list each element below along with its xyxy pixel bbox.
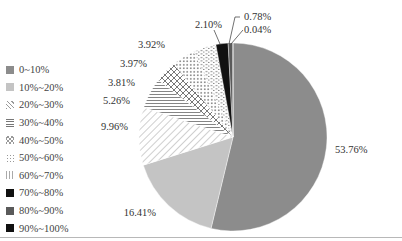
legend-item-50-60: 50%~60% <box>6 149 68 167</box>
slice-value-label: 5.26% <box>103 95 130 106</box>
swatch-crosshatch-icon <box>6 136 14 144</box>
swatch-dots-icon <box>6 154 14 162</box>
legend-item-0-10: 0~10% <box>6 61 68 79</box>
legend-item-30-40: 30%~40% <box>6 114 68 132</box>
legend-label: 60%~70% <box>19 170 63 181</box>
leader-line <box>231 30 243 44</box>
legend-item-70-80: 70%~80% <box>6 184 68 202</box>
swatch-dashes-icon <box>6 171 14 179</box>
legend-label: 30%~40% <box>19 117 63 128</box>
swatch-horizontal-icon <box>6 119 14 127</box>
legend-label: 70%~80% <box>19 187 63 198</box>
slice-value-label: 3.97% <box>120 58 147 69</box>
swatch-black-icon <box>6 224 14 232</box>
swatch-medium-gray-icon <box>6 207 14 215</box>
swatch-light-gray-icon <box>6 83 14 91</box>
legend-label: 0~10% <box>19 64 49 75</box>
legend-label: 90%~100% <box>19 223 68 234</box>
legend-item-40-50: 40%~50% <box>6 131 68 149</box>
bottom-divider <box>0 237 402 238</box>
legend: 0~10% 10%~20% 20%~30% 30%~40% 40%~50% 50… <box>6 61 68 237</box>
legend-label: 80%~90% <box>19 205 63 216</box>
slice-value-label: 0.04% <box>244 24 271 35</box>
legend-label: 10%~20% <box>19 82 63 93</box>
legend-label: 40%~50% <box>19 135 63 146</box>
legend-item-90-100: 90%~100% <box>6 219 68 237</box>
swatch-dark-gray-icon <box>6 66 14 74</box>
slice-value-label: 2.10% <box>195 19 222 30</box>
slice-value-label: 16.41% <box>124 207 157 218</box>
slice-value-label: 3.92% <box>138 39 165 50</box>
slice-value-label: 9.96% <box>101 121 128 132</box>
legend-item-10-20: 10%~20% <box>6 79 68 97</box>
slice-value-label: 0.78% <box>244 11 271 22</box>
slice-value-label: 53.76% <box>335 144 368 155</box>
legend-label: 50%~60% <box>19 152 63 163</box>
leader-line <box>214 30 220 44</box>
legend-item-80-90: 80%~90% <box>6 202 68 220</box>
swatch-black-icon <box>6 189 14 197</box>
swatch-diagonal-icon <box>6 101 14 109</box>
legend-item-20-30: 20%~30% <box>6 96 68 114</box>
slice-value-label: 3.81% <box>108 77 135 88</box>
legend-item-60-70: 60%~70% <box>6 167 68 185</box>
pie-slices <box>139 43 327 231</box>
legend-label: 20%~30% <box>19 99 63 110</box>
